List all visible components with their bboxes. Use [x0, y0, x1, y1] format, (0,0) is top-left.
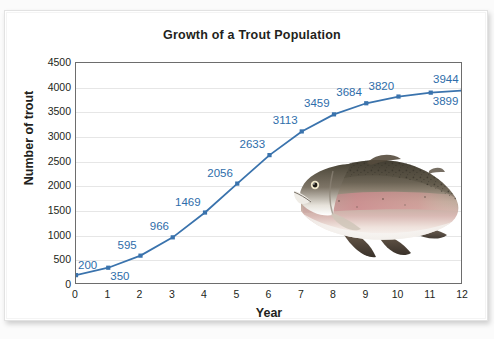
y-tick-label: 4500: [29, 57, 71, 67]
data-point-label: 3944: [433, 73, 459, 85]
data-point-label: 3684: [336, 86, 362, 98]
x-tick-label: 10: [386, 288, 410, 300]
x-axis-tick-labels: 0123456789101112: [75, 288, 462, 304]
data-point-label: 3899: [433, 95, 459, 107]
data-point-marker: [364, 101, 368, 105]
data-point-marker: [300, 129, 304, 133]
data-point-marker: [396, 94, 400, 98]
x-tick-label: 12: [450, 288, 474, 300]
data-point-label: 3459: [304, 97, 330, 109]
x-tick-label: 2: [128, 288, 152, 300]
y-tick-label: 4000: [29, 82, 71, 92]
plot-area: [75, 62, 462, 284]
x-tick-label: 3: [160, 288, 184, 300]
x-axis-title: Year: [75, 306, 463, 320]
y-tick-label: 3500: [29, 106, 71, 116]
data-point-marker: [76, 273, 78, 277]
x-tick-label: 9: [353, 288, 377, 300]
x-tick-label: 5: [224, 288, 248, 300]
data-point-label: 2056: [207, 167, 233, 179]
chart-card: Growth of a Trout Population Number of t…: [4, 10, 488, 321]
x-tick-label: 11: [418, 288, 442, 300]
x-tick-label: 6: [257, 288, 281, 300]
y-tick-label: 2500: [29, 156, 71, 166]
data-point-marker: [267, 153, 271, 157]
data-point-marker: [203, 210, 207, 214]
y-axis-tick-labels: 050010001500200025003000350040004500: [29, 62, 71, 284]
data-point-marker: [332, 112, 336, 116]
data-point-marker: [138, 254, 142, 258]
data-point-label: 350: [110, 270, 129, 282]
data-point-marker: [171, 235, 175, 239]
data-point-marker: [235, 181, 239, 185]
data-point-label: 3820: [369, 80, 395, 92]
y-tick-label: 500: [29, 254, 71, 264]
data-point-label: 595: [118, 239, 137, 251]
data-point-label: 966: [150, 220, 169, 232]
data-point-label: 3113: [273, 114, 298, 126]
data-point-label: 1469: [175, 196, 201, 208]
data-point-label: 200: [78, 259, 97, 271]
data-point-marker: [461, 88, 462, 92]
y-tick-label: 2000: [29, 180, 71, 190]
x-tick-label: 8: [321, 288, 345, 300]
y-tick-label: 1500: [29, 205, 71, 215]
x-tick-label: 0: [63, 288, 87, 300]
x-tick-label: 1: [95, 288, 119, 300]
x-tick-label: 4: [192, 288, 216, 300]
data-point-label: 2633: [240, 138, 266, 150]
chart-title: Growth of a Trout Population: [5, 28, 499, 42]
trout-population-line: [76, 63, 462, 284]
y-tick-label: 3000: [29, 131, 71, 141]
y-tick-label: 1000: [29, 230, 71, 240]
x-tick-label: 7: [289, 288, 313, 300]
